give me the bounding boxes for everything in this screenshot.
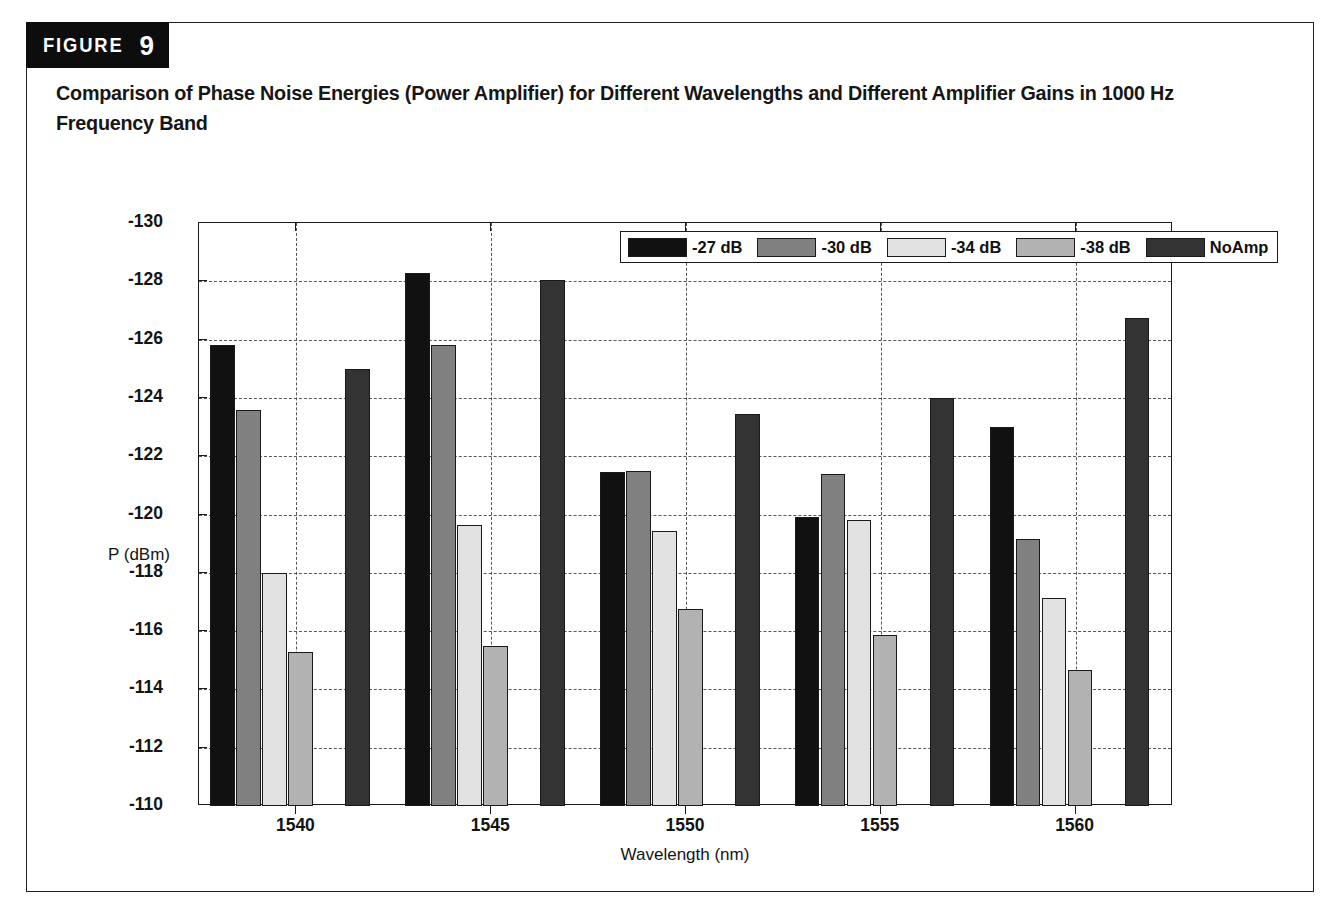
bar [236, 410, 261, 806]
x-tick-mark-top [490, 222, 491, 231]
bar [795, 517, 820, 806]
bar [345, 369, 370, 806]
y-tick-label: -126 [93, 328, 163, 349]
bar [873, 635, 898, 806]
bar [210, 345, 235, 806]
legend-label: -34 dB [951, 238, 1001, 257]
x-tick-mark-top [295, 222, 296, 231]
y-tick-label: -110 [93, 794, 163, 815]
x-tick-mark [1075, 805, 1076, 814]
chart-legend: -27 dB-30 dB-34 dB-38 dBNoAmp [620, 231, 1278, 263]
y-tick-label: -120 [93, 503, 163, 524]
bar [847, 520, 872, 806]
y-tick-mark [198, 688, 207, 689]
y-tick-mark [198, 747, 207, 748]
y-tick-mark [198, 280, 207, 281]
figure-tab-word: FIGURE [43, 34, 124, 57]
x-tick-label: 1545 [430, 815, 550, 836]
y-tick-label: -128 [93, 269, 163, 290]
y-tick-mark [198, 455, 207, 456]
bar [1125, 318, 1150, 806]
y-tick-mark [198, 514, 207, 515]
bar [1016, 539, 1041, 806]
figure-root: FIGURE 9 Comparison of Phase Noise Energ… [0, 0, 1343, 921]
legend-swatch [757, 238, 816, 257]
y-tick-label: -124 [93, 386, 163, 407]
x-tick-mark-top [1075, 222, 1076, 231]
y-tick-label: -114 [93, 677, 163, 698]
legend-swatch [628, 238, 687, 257]
bar [990, 427, 1015, 806]
bar [262, 573, 287, 806]
legend-item: -27 dB [628, 232, 757, 262]
x-tick-mark [685, 805, 686, 814]
bar [1042, 598, 1067, 806]
y-tick-label: -112 [93, 736, 163, 757]
y-tick-label: -130 [93, 211, 163, 232]
y-gridline [199, 281, 1171, 282]
bar [1068, 670, 1093, 806]
bar [735, 414, 760, 806]
y-tick-label: -122 [93, 444, 163, 465]
bar [288, 652, 313, 806]
x-tick-label: 1560 [1015, 815, 1135, 836]
x-tick-mark-top [685, 222, 686, 231]
x-tick-label: 1540 [235, 815, 355, 836]
bar [600, 472, 625, 806]
legend-label: -30 dB [821, 238, 871, 257]
x-tick-mark [490, 805, 491, 814]
x-tick-label: 1550 [625, 815, 745, 836]
legend-swatch [887, 238, 946, 257]
bar [457, 525, 482, 806]
legend-swatch [1146, 238, 1205, 257]
y-tick-mark [198, 339, 207, 340]
y-axis-title: P (dBm) [108, 545, 170, 565]
legend-item: NoAmp [1146, 232, 1271, 262]
legend-item: -38 dB [1016, 232, 1145, 262]
legend-label: -27 dB [692, 238, 742, 257]
bar [678, 609, 703, 806]
bar [821, 474, 846, 806]
bar [652, 531, 677, 806]
bar [405, 273, 430, 806]
bar [540, 280, 565, 806]
legend-label: NoAmp [1210, 238, 1269, 257]
y-tick-mark [198, 397, 207, 398]
figure-number-tab: FIGURE 9 [26, 22, 169, 68]
bar [483, 646, 508, 806]
bar [930, 398, 955, 806]
y-tick-mark [198, 572, 207, 573]
figure-tab-number: 9 [140, 29, 154, 62]
bar [431, 345, 456, 806]
plot-area [198, 222, 1172, 805]
bar [626, 471, 651, 806]
y-tick-label: -116 [93, 619, 163, 640]
x-tick-label: 1555 [820, 815, 940, 836]
x-tick-mark [295, 805, 296, 814]
legend-label: -38 dB [1080, 238, 1130, 257]
legend-item: -30 dB [757, 232, 886, 262]
x-axis-title: Wavelength (nm) [198, 845, 1172, 865]
legend-item: -34 dB [887, 232, 1016, 262]
x-tick-mark-top [880, 222, 881, 231]
legend-swatch [1016, 238, 1075, 257]
y-tick-mark [198, 630, 207, 631]
x-tick-mark [880, 805, 881, 814]
y-gridline [199, 340, 1171, 341]
figure-caption: Comparison of Phase Noise Energies (Powe… [56, 78, 1200, 138]
